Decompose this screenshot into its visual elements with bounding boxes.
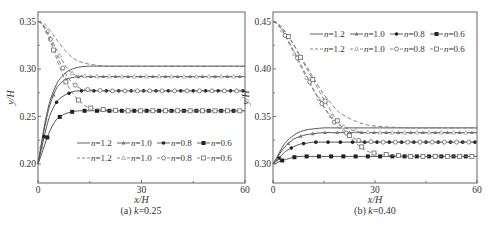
x-axis-label: x/H bbox=[133, 194, 149, 205]
open-circle-marker bbox=[197, 89, 201, 93]
filled-square-marker bbox=[435, 32, 439, 36]
x-tick-label: 60 bbox=[240, 185, 250, 195]
y-tick-label: 0.45 bbox=[254, 17, 271, 27]
open-square-marker bbox=[372, 151, 376, 155]
open-triangle-marker bbox=[107, 74, 111, 78]
open-triangle-marker bbox=[194, 74, 198, 78]
open-square-marker bbox=[101, 107, 105, 111]
open-circle-marker bbox=[418, 140, 422, 144]
filled-square-marker bbox=[202, 141, 206, 145]
series-line bbox=[38, 22, 245, 113]
legend-item: n=1.2 bbox=[77, 153, 112, 163]
filled-square-marker bbox=[292, 155, 296, 159]
y-tick-label: 0.40 bbox=[254, 64, 271, 74]
series-line bbox=[38, 22, 245, 79]
legend: n=1.2n=1.0n=0.8n=0.6n=1.2n=1.0n=0.8n=0.6 bbox=[310, 29, 465, 54]
filled-square-marker bbox=[329, 154, 333, 158]
open-circle-marker bbox=[393, 140, 397, 144]
legend-item: n=0.8 bbox=[157, 153, 192, 163]
legend-item: n=1.2 bbox=[310, 44, 345, 54]
open-square-marker bbox=[138, 109, 142, 113]
open-square-marker bbox=[89, 106, 93, 110]
open-square-marker bbox=[176, 109, 180, 113]
legend: n=1.2n=1.0n=0.8n=0.6n=1.2n=1.0n=0.8n=0.6 bbox=[77, 138, 232, 163]
open-square-marker bbox=[286, 34, 290, 38]
open-triangle-marker bbox=[427, 130, 431, 134]
legend-label: n=1.0 bbox=[131, 153, 152, 163]
open-square-marker bbox=[396, 154, 400, 158]
open-square-marker bbox=[311, 77, 315, 81]
open-circle-marker bbox=[61, 66, 65, 70]
open-square-marker bbox=[299, 55, 303, 59]
open-triangle-marker bbox=[317, 97, 321, 101]
legend-label: n=0.8 bbox=[404, 29, 425, 39]
legend-item: n=0.6 bbox=[430, 44, 465, 54]
open-square-marker bbox=[126, 109, 130, 113]
open-triangle-marker bbox=[95, 74, 99, 78]
open-triangle-marker bbox=[354, 129, 358, 133]
filled-circle-marker bbox=[326, 140, 330, 144]
open-square-marker bbox=[213, 109, 217, 113]
open-triangle-marker bbox=[145, 74, 149, 78]
open-triangle-marker bbox=[70, 71, 74, 75]
open-triangle-marker bbox=[83, 74, 87, 78]
open-circle-marker bbox=[123, 89, 127, 93]
open-circle-marker bbox=[173, 89, 177, 93]
filled-square-marker bbox=[317, 154, 321, 158]
filled-square-marker bbox=[305, 154, 309, 158]
open-circle-marker bbox=[135, 89, 139, 93]
open-square-marker bbox=[384, 152, 388, 156]
open-circle-marker bbox=[369, 140, 373, 144]
open-circle-marker bbox=[357, 138, 361, 142]
legend-label: n=0.6 bbox=[211, 153, 232, 163]
open-circle-marker bbox=[455, 140, 459, 144]
legend-item: n=1.0 bbox=[117, 138, 152, 148]
open-triangle-marker bbox=[207, 74, 211, 78]
open-triangle-marker bbox=[182, 74, 186, 78]
y-tick-label: 0.20 bbox=[19, 159, 36, 169]
legend-label: n=1.2 bbox=[324, 29, 345, 39]
filled-circle-marker bbox=[55, 100, 59, 104]
open-square-marker bbox=[114, 108, 118, 112]
open-triangle-marker bbox=[439, 130, 443, 134]
open-square-marker bbox=[458, 154, 462, 158]
y-tick-label: 0.30 bbox=[254, 159, 271, 169]
open-triangle-marker bbox=[390, 130, 394, 134]
filled-circle-marker bbox=[67, 91, 71, 95]
filled-circle-marker bbox=[162, 141, 166, 145]
filled-circle-marker bbox=[395, 32, 399, 36]
filled-square-marker bbox=[70, 110, 74, 114]
filled-square-marker bbox=[341, 154, 345, 158]
x-axis: 03060 bbox=[271, 180, 482, 195]
series-line bbox=[273, 130, 477, 164]
legend-item: n=1.0 bbox=[350, 29, 385, 39]
legend-item: n=1.2 bbox=[310, 29, 345, 39]
series-line bbox=[38, 66, 245, 164]
open-triangle-marker bbox=[464, 130, 468, 134]
open-circle-marker bbox=[235, 89, 239, 93]
open-square-marker bbox=[52, 48, 56, 52]
open-triangle-marker bbox=[170, 74, 174, 78]
open-circle-marker bbox=[395, 47, 399, 51]
legend-item: n=1.0 bbox=[117, 153, 152, 163]
open-triangle-marker bbox=[415, 130, 419, 134]
legend-item: n=0.6 bbox=[430, 29, 465, 39]
legend-item: n=0.8 bbox=[390, 29, 425, 39]
open-square-marker bbox=[151, 109, 155, 113]
x-tick-label: 0 bbox=[271, 185, 276, 195]
open-triangle-marker bbox=[132, 74, 136, 78]
x-axis-label: x/H bbox=[367, 194, 383, 205]
y-tick-label: 0.30 bbox=[19, 64, 36, 74]
open-square-marker bbox=[433, 154, 437, 158]
series-line bbox=[38, 22, 245, 93]
filled-square-marker bbox=[45, 135, 49, 139]
filled-circle-marker bbox=[314, 140, 318, 144]
open-square-marker bbox=[202, 156, 206, 160]
open-square-marker bbox=[421, 154, 425, 158]
legend-label: n=1.2 bbox=[91, 138, 112, 148]
open-circle-marker bbox=[185, 89, 189, 93]
filled-square-marker bbox=[354, 154, 358, 158]
open-circle-marker bbox=[148, 89, 152, 93]
open-circle-marker bbox=[73, 83, 77, 87]
open-square-marker bbox=[348, 134, 352, 138]
